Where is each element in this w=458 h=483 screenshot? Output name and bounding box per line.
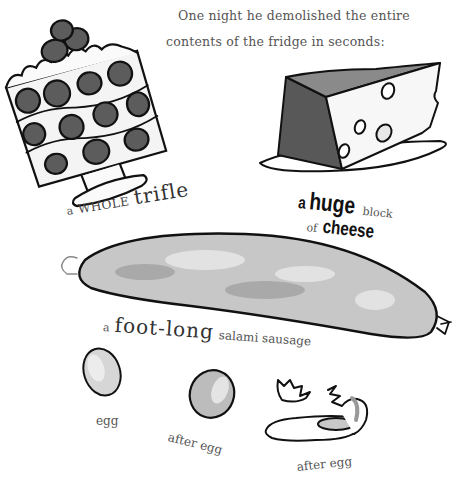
egg-icon — [186, 366, 238, 422]
egg-3-label: after egg — [296, 454, 353, 474]
intro-line-1: One night he demolished the entire — [178, 8, 410, 23]
trifle-caps: WHOLE — [77, 194, 130, 216]
cheese-icon — [250, 55, 458, 195]
egg-2-label: after egg — [167, 430, 224, 457]
egg-1-label: egg — [96, 414, 118, 428]
salami-suffix: salami sausage — [218, 328, 311, 348]
cheese-prefix: a — [297, 193, 307, 214]
salami-prefix: a — [102, 321, 109, 334]
egg-icon — [80, 344, 126, 400]
cheese-suffix: block — [362, 205, 393, 221]
cracked-egg-icon — [258, 376, 388, 446]
trifle-prefix: a — [66, 204, 75, 218]
